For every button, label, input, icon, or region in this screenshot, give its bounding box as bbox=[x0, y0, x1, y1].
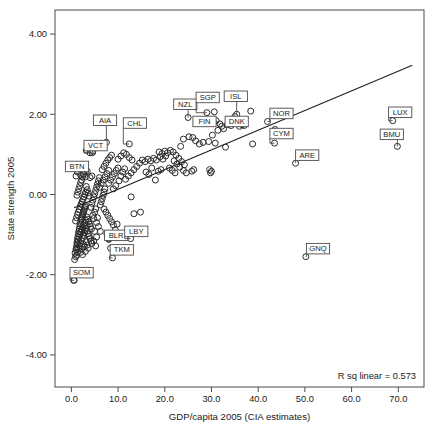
data-point bbox=[200, 139, 206, 145]
plot-frame bbox=[55, 10, 424, 387]
data-point bbox=[178, 143, 184, 149]
data-point bbox=[209, 132, 215, 138]
x-tick-label: 50.0 bbox=[296, 394, 314, 404]
x-tick-label: 40.0 bbox=[249, 394, 267, 404]
data-point bbox=[206, 139, 212, 145]
data-point bbox=[248, 108, 254, 114]
label-text-bmu: BMU bbox=[383, 130, 400, 139]
label-text-chl: CHL bbox=[127, 119, 142, 128]
label-text-tkm: TKM bbox=[114, 245, 130, 254]
x-tick-label: 60.0 bbox=[343, 394, 361, 404]
label-text-sgp: SGP bbox=[200, 93, 216, 102]
axes-layer bbox=[50, 10, 424, 392]
fit-line bbox=[74, 65, 412, 207]
label-text-lux: LUX bbox=[393, 108, 408, 117]
data-point bbox=[137, 209, 143, 215]
label-text-fin: FIN bbox=[198, 117, 210, 126]
data-points-layer bbox=[71, 108, 401, 283]
data-point bbox=[189, 168, 195, 174]
data-point bbox=[128, 194, 134, 200]
x-tick-label: 0.0 bbox=[65, 394, 78, 404]
data-point bbox=[149, 165, 155, 171]
y-tick-label: -2.00 bbox=[26, 270, 47, 280]
label-leader bbox=[196, 103, 207, 113]
label-text-are: ARE bbox=[299, 151, 315, 160]
label-text-lby: LBY bbox=[129, 227, 143, 236]
label-text-btn: BTN bbox=[69, 162, 84, 171]
data-point bbox=[191, 167, 197, 173]
x-tick-label: 70.0 bbox=[389, 394, 407, 404]
data-point bbox=[131, 211, 137, 217]
x-tick-label: 10.0 bbox=[109, 394, 127, 404]
y-tick-label: 0.00 bbox=[29, 190, 47, 200]
data-point bbox=[114, 221, 120, 227]
x-tick-label: 20.0 bbox=[156, 394, 174, 404]
data-point bbox=[196, 141, 202, 147]
label-text-vct: VCT bbox=[88, 141, 104, 150]
scatter-chart: AIACHLVCTBTNNZLSGPFINISLDNKNORCYMLUXBMUA… bbox=[0, 0, 435, 433]
data-point bbox=[211, 109, 217, 115]
label-text-blr: BLR bbox=[109, 231, 124, 240]
y-axis-title: State strength 2005 bbox=[5, 157, 16, 241]
label-text-nor: NOR bbox=[273, 109, 290, 118]
regression-line bbox=[74, 65, 412, 207]
label-text-isl: ISL bbox=[230, 92, 241, 101]
label-text-nzl: NZL bbox=[178, 100, 192, 109]
y-tick-label: -4.00 bbox=[26, 350, 47, 360]
x-tick-label: 30.0 bbox=[202, 394, 220, 404]
data-point bbox=[212, 140, 218, 146]
y-tick-label: 2.00 bbox=[29, 110, 47, 120]
plot-canvas: AIACHLVCTBTNNZLSGPFINISLDNKNORCYMLUXBMUA… bbox=[0, 0, 435, 433]
data-point bbox=[152, 177, 158, 183]
data-point bbox=[250, 141, 256, 147]
label-text-dnk: DNK bbox=[229, 117, 245, 126]
data-point bbox=[89, 173, 95, 179]
data-point bbox=[180, 136, 186, 142]
axis-text-layer: 0.010.020.030.040.050.060.070.04.002.000… bbox=[5, 29, 416, 422]
label-text-cym: CYM bbox=[273, 129, 290, 138]
label-leader bbox=[123, 128, 129, 144]
label-text-gnq: GNQ bbox=[309, 244, 326, 253]
r-squared-annotation: R sq linear = 0.573 bbox=[338, 371, 416, 381]
x-axis-title: GDP/capita 2005 (CIA estimates) bbox=[169, 411, 310, 422]
y-tick-label: 4.00 bbox=[29, 29, 47, 39]
label-text-som: SOM bbox=[73, 268, 90, 277]
label-text-aia: AIA bbox=[99, 116, 112, 125]
point-labels-layer: AIACHLVCTBTNNZLSGPFINISLDNKNORCYMLUXBMUA… bbox=[65, 91, 411, 280]
